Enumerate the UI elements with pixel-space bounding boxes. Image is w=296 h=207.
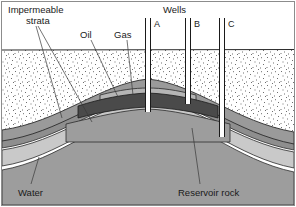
label-reservoir-rock: Reservoir rock: [178, 187, 239, 198]
well-b[interactable]: [186, 18, 191, 104]
well-b-bore[interactable]: [186, 18, 191, 104]
well-c[interactable]: [220, 18, 225, 137]
label-oil: Oil: [80, 29, 92, 40]
label-well-c: C: [228, 19, 235, 29]
cross-section-svg: Impermeable strata Oil Gas Wells A B C W…: [0, 0, 296, 207]
well-a[interactable]: [146, 18, 151, 112]
label-well-b: B: [194, 19, 200, 29]
label-gas: Gas: [114, 29, 132, 40]
well-c-bore[interactable]: [220, 18, 225, 137]
label-impermeable-strata-line1: Impermeable: [8, 4, 63, 15]
label-wells-header: Wells: [163, 4, 186, 15]
label-impermeable-strata-line2: strata: [26, 15, 50, 26]
label-well-a: A: [154, 19, 160, 29]
well-a-bore[interactable]: [146, 18, 151, 112]
label-water: Water: [18, 187, 43, 198]
geological-cross-section-figure: Impermeable strata Oil Gas Wells A B C W…: [0, 0, 296, 207]
